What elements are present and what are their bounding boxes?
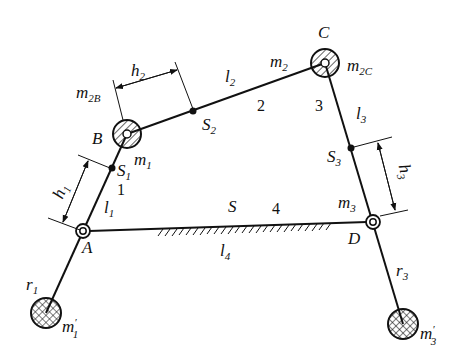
label-m3-prime: m′3 <box>420 323 437 347</box>
label-link-4: 4 <box>272 200 280 217</box>
link-1 <box>46 134 127 313</box>
joint-a-pivot <box>76 224 90 238</box>
label-m1: m1 <box>134 150 152 171</box>
label-m1-prime: m′1 <box>62 316 78 340</box>
label-joint-a: A <box>81 238 93 257</box>
label-h3: h3 <box>393 162 417 181</box>
label-l1: l1 <box>104 198 114 219</box>
label-m2c: m2C <box>347 56 373 77</box>
ground-link-4 <box>89 222 367 236</box>
label-link-1: 1 <box>117 181 125 198</box>
joint-b-mass <box>113 120 141 148</box>
joint-d-pivot <box>366 215 380 229</box>
label-r1: r1 <box>26 275 38 296</box>
label-joint-d: D <box>347 229 361 248</box>
label-m2: m2 <box>270 52 288 73</box>
label-l3: l3 <box>356 104 367 125</box>
label-l2: l2 <box>225 67 236 88</box>
label-r3: r3 <box>396 261 409 282</box>
label-link-3: 3 <box>315 97 323 114</box>
label-h2: h2 <box>131 61 146 82</box>
label-m2b: m2B <box>76 83 101 104</box>
label-s2: S2 <box>202 115 217 136</box>
label-s-ground: S <box>228 197 237 216</box>
counterweight-m3-prime <box>388 309 418 339</box>
label-joint-c: C <box>318 23 330 42</box>
label-h1: h1 <box>49 181 74 202</box>
four-bar-linkage-diagram: B C A D S1 S2 S3 S 1 2 3 4 l1 l2 l3 l4 h… <box>0 0 470 359</box>
label-l4: l4 <box>220 241 231 262</box>
label-m3: m3 <box>338 193 356 214</box>
label-s3: S3 <box>327 147 342 168</box>
counterweight-m1-prime <box>31 298 61 328</box>
label-link-2: 2 <box>257 97 265 114</box>
joint-c-mass <box>311 49 339 77</box>
label-joint-b: B <box>92 129 103 148</box>
com-dot-s3 <box>348 145 355 152</box>
dimension-h2 <box>113 62 193 120</box>
label-s1: S1 <box>117 161 131 182</box>
